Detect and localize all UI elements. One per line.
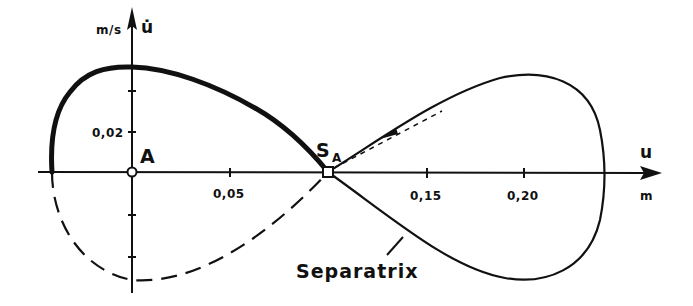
y-axis [127,7,137,293]
right-loop-separatrix [328,75,605,280]
point-A-label: A [140,145,156,167]
left-loop-upper-theory [52,67,328,172]
x-tick-label-020: 0,20 [507,189,539,203]
right-branch-dashed-overlay [334,111,442,168]
point-S-subscript: A [332,151,342,165]
phase-portrait-figure: m/s u̇ 0,02 u m 0,05 0,15 0,20 A S A Sep… [0,0,693,306]
x-tick-label-015: 0,15 [410,189,442,203]
x-axis-label: u [640,142,652,162]
y-unit-label: m/s [96,23,122,37]
separatrix-label: Separatrix [296,260,418,282]
y-axis-label: u̇ [141,17,153,37]
y-tick-label-002: 0,02 [92,126,124,140]
point-SA-saddle [323,167,333,177]
point-A-center [128,168,137,177]
left-loop-upper-measured [52,67,328,172]
left-loop-lower-dashed [52,172,328,280]
separatrix-leader-line [387,237,403,255]
direction-arrow-icon [380,128,398,139]
x-tick-label-005: 0,05 [213,187,245,201]
x-unit-label: m [640,189,653,203]
point-S-label: S [316,139,331,161]
